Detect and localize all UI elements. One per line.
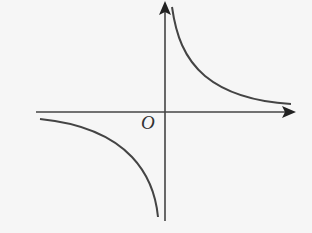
x-axis — [36, 106, 296, 118]
hyperbola-branch-quadrant-3 — [40, 119, 158, 217]
y-axis — [159, 1, 171, 221]
origin-label: O — [141, 113, 155, 132]
hyperbola-graph — [0, 0, 312, 233]
hyperbola-branch-quadrant-1 — [172, 7, 291, 104]
